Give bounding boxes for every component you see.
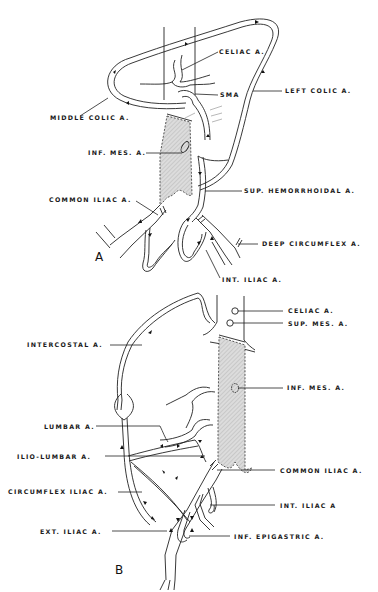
panel-letter-a: A <box>95 250 103 264</box>
label-celiac-a: CELIAC A. <box>219 48 265 56</box>
label-common-iliac-a: COMMON ILIAC A. <box>49 196 132 204</box>
label-b-ilio-lumbar-a: ILIO-LUMBAR A. <box>17 453 91 461</box>
label-b-celiac-a: CELIAC A. <box>288 307 334 315</box>
label-sma: SMA <box>220 91 240 99</box>
label-b-inf-mes-a: INF. MES. A. <box>287 384 345 392</box>
label-deep-circumflex-a: DEEP CIRCUMFLEX A. <box>262 240 361 248</box>
label-middle-colic-a: MIDDLE COLIC A. <box>50 114 130 122</box>
anatomical-diagram: CELIAC A. SMA LEFT COLIC A. MIDDLE COLIC… <box>0 0 378 592</box>
label-b-circumflex-iliac-a: CIRCUMFLEX ILIAC A. <box>8 488 108 496</box>
label-b-sup-mes-a: SUP. MES. A. <box>288 320 348 328</box>
panel-b-leaders <box>96 311 283 536</box>
label-b-lumbar-a: LUMBAR A. <box>44 423 95 431</box>
label-b-inf-epigastric-a: INF. EPIGASTRIC A. <box>234 533 325 541</box>
label-sup-hemorrhoidal-a: SUP. HEMORRHOIDAL A. <box>244 187 355 195</box>
label-b-int-iliac-a: INT. ILIAC A <box>280 502 336 510</box>
panel-letter-b: B <box>115 563 123 577</box>
label-inf-mes-a: INF. MES. A. <box>88 149 146 157</box>
label-left-colic-a: LEFT COLIC A. <box>285 87 352 95</box>
label-b-intercostal-a: INTERCOSTAL A. <box>27 341 103 349</box>
label-b-ext-iliac-a: EXT. ILIAC A. <box>40 528 102 536</box>
label-b-common-iliac-a: COMMON ILIAC A. <box>280 467 363 475</box>
label-int-iliac-a: INT. ILIAC A. <box>222 276 282 284</box>
panel-b-drawing <box>115 293 255 590</box>
panel-a-drawing <box>96 19 279 271</box>
